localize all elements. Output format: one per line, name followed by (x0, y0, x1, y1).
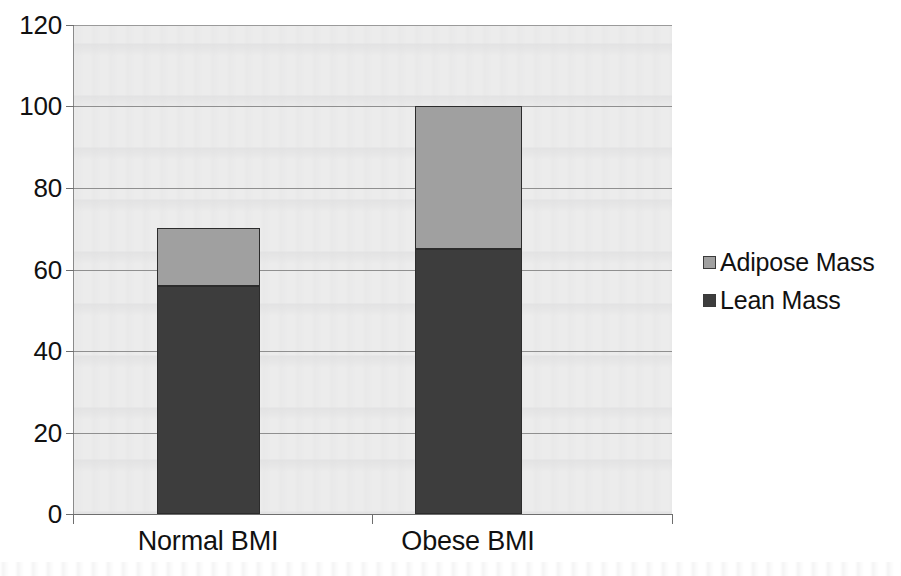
bar-segment-adipose-mass-obese-bmi[interactable] (415, 106, 522, 249)
legend-swatch-adipose-mass (703, 256, 716, 269)
y-axis-tick-40 (66, 351, 74, 352)
y-axis-tick-labels: 120 100 80 60 40 20 0 (0, 0, 62, 576)
y-axis-tick-60 (66, 270, 74, 271)
bar-segment-lean-mass-normal-bmi[interactable] (157, 286, 260, 514)
bar-segment-adipose-mass-normal-bmi[interactable] (157, 228, 260, 286)
plot-area (73, 25, 672, 514)
y-axis-label-60: 60 (4, 257, 62, 283)
y-axis-label-80: 80 (4, 175, 62, 201)
y-axis-tick-120 (66, 25, 74, 26)
y-axis-tick-20 (66, 433, 74, 434)
x-axis-end-cap (672, 514, 673, 524)
legend-label-adipose-mass: Adipose Mass (720, 249, 875, 275)
x-axis-line (73, 514, 673, 515)
bar-segment-lean-mass-obese-bmi[interactable] (415, 249, 522, 514)
y-axis-label-40: 40 (4, 338, 62, 364)
bar-group-normal-bmi[interactable] (157, 25, 260, 514)
legend-label-lean-mass: Lean Mass (720, 287, 841, 313)
y-axis-label-100: 100 (4, 93, 62, 119)
x-axis-label-normal-bmi: Normal BMI (113, 526, 303, 556)
x-axis-tick-divider (372, 514, 373, 524)
y-axis-label-20: 20 (4, 420, 62, 446)
stacked-bar-chart: 120 100 80 60 40 20 0 Normal BMI Obese B… (0, 0, 901, 576)
legend-item-lean-mass[interactable]: Lean Mass (703, 281, 893, 319)
y-axis-tick-80 (66, 188, 74, 189)
bottom-scan-artifact (0, 562, 901, 576)
x-axis-start-cap (73, 514, 74, 524)
x-axis-label-obese-bmi: Obese BMI (373, 526, 563, 556)
legend-item-adipose-mass[interactable]: Adipose Mass (703, 243, 893, 281)
y-axis-tick-100 (66, 106, 74, 107)
legend-swatch-lean-mass (703, 294, 716, 307)
y-axis-label-120: 120 (4, 12, 62, 38)
bar-group-obese-bmi[interactable] (415, 25, 522, 514)
y-axis-label-0: 0 (4, 501, 62, 527)
chart-legend: Adipose Mass Lean Mass (703, 243, 893, 319)
